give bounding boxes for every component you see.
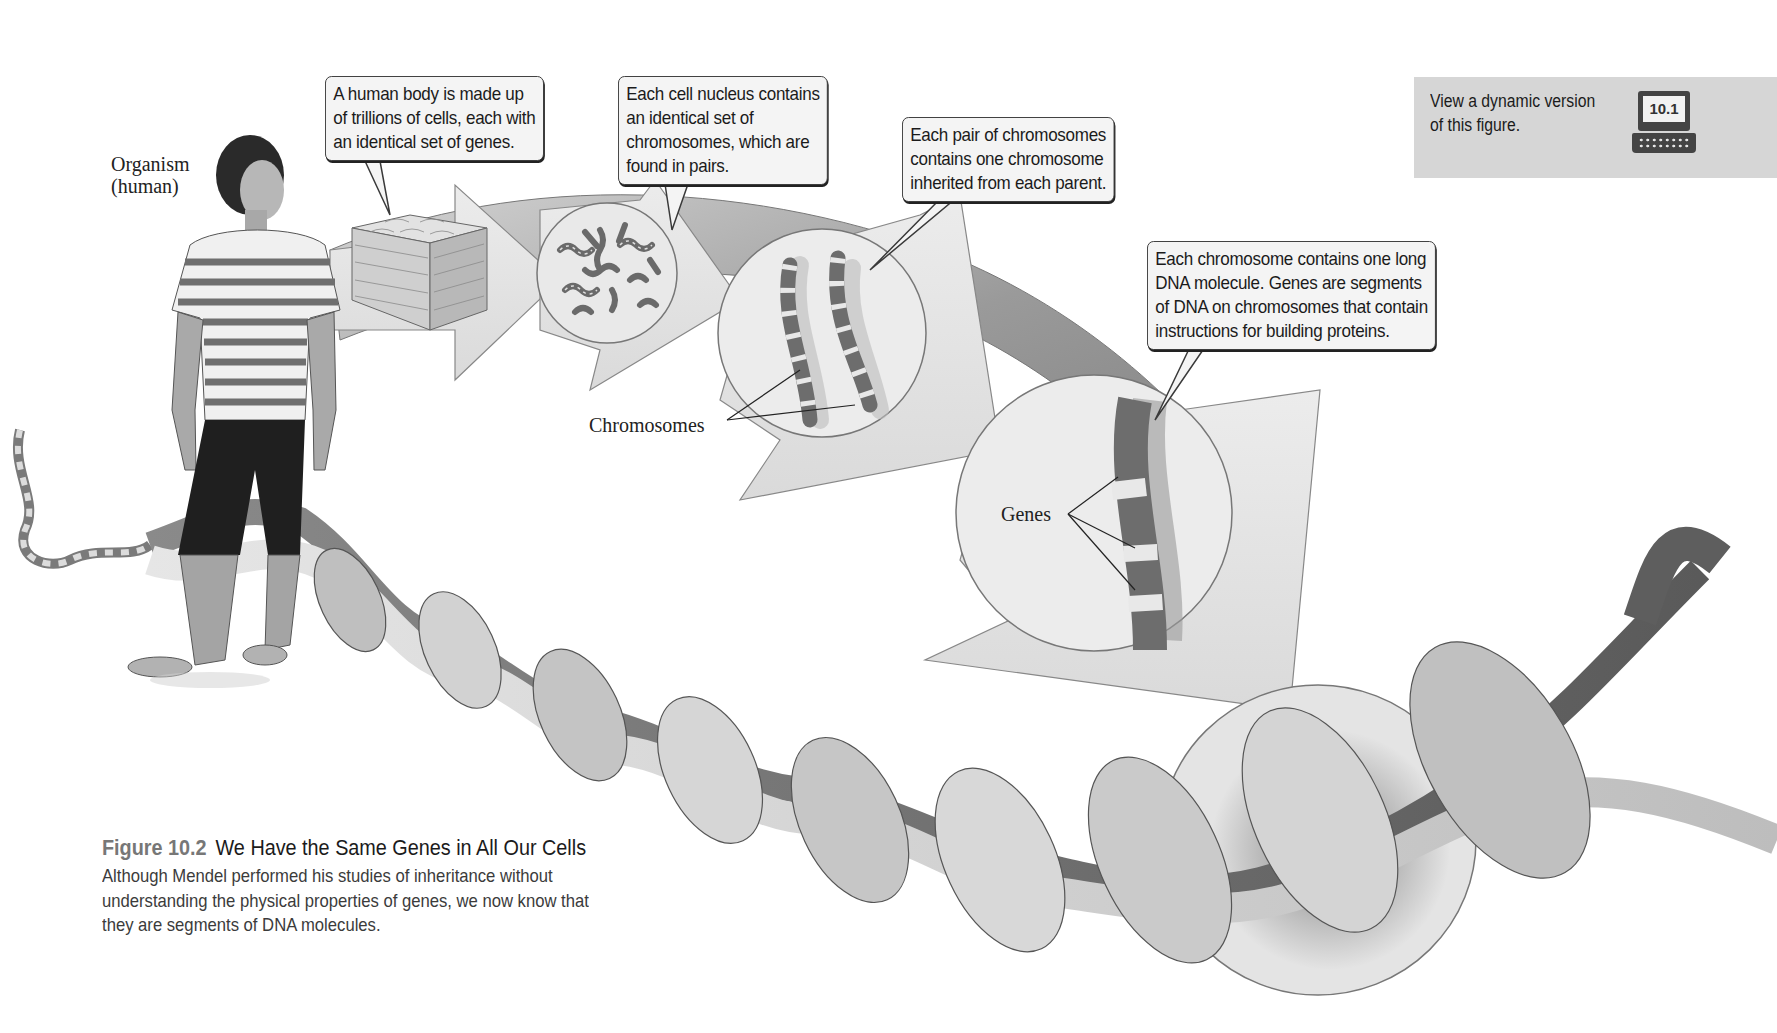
- human-figure-illustration: [128, 135, 340, 688]
- keyboard-keys: [1638, 137, 1690, 149]
- caption-line: understanding the physical properties of…: [102, 889, 678, 914]
- dynamic-version-link[interactable]: View a dynamic version of this figure. 1…: [1414, 77, 1777, 178]
- figure-badge: 10.1: [1643, 96, 1685, 122]
- figure-caption-title: Figure 10.2We Have the Same Genes in All…: [102, 834, 678, 862]
- figure-caption-body: Although Mendel performed his studies of…: [102, 864, 678, 938]
- organism-label: Organism (human): [111, 153, 190, 197]
- callout-line: of trillions of cells, each with: [333, 106, 535, 130]
- chromosome-pair-circle: [718, 229, 926, 437]
- genes-circle: [956, 375, 1232, 651]
- nucleus-circle: [537, 203, 677, 343]
- figure-number: Figure 10.2: [102, 835, 207, 860]
- callout-line: found in pairs.: [626, 154, 819, 178]
- laptop-icon: 10.1: [1632, 91, 1710, 159]
- dynamic-version-line: View a dynamic version: [1430, 89, 1595, 113]
- dynamic-version-text: View a dynamic version of this figure.: [1430, 89, 1595, 137]
- figure-title: We Have the Same Genes in All Our Cells: [216, 835, 587, 860]
- callout-line: instructions for building proteins.: [1155, 319, 1428, 343]
- callout-cell-nucleus: Each cell nucleus contains an identical …: [618, 76, 828, 185]
- callout-line: Each pair of chromosomes: [910, 123, 1106, 147]
- callout-body-cells: A human body is made up of trillions of …: [325, 76, 544, 161]
- organism-label-line-2: (human): [111, 175, 190, 197]
- chromosomes-label: Chromosomes: [589, 414, 705, 436]
- figure-caption: Figure 10.2We Have the Same Genes in All…: [102, 834, 742, 938]
- laptop-keyboard: [1632, 133, 1696, 153]
- callout-line: Each cell nucleus contains: [626, 82, 819, 106]
- callout-line: chromosomes, which are: [626, 130, 819, 154]
- callout-line: an identical set of genes.: [333, 130, 535, 154]
- callout-line: A human body is made up: [333, 82, 535, 106]
- callout-line: DNA molecule. Genes are segments: [1155, 271, 1428, 295]
- callout-chromosome-pair: Each pair of chromosomes contains one ch…: [902, 117, 1115, 202]
- callout-line: an identical set of: [626, 106, 819, 130]
- callout-line: contains one chromosome: [910, 147, 1106, 171]
- dynamic-version-line: of this figure.: [1430, 113, 1595, 137]
- callout-dna-genes: Each chromosome contains one long DNA mo…: [1147, 241, 1436, 350]
- organism-label-line-1: Organism: [111, 153, 190, 175]
- genes-label: Genes: [1001, 503, 1051, 525]
- laptop-screen: 10.1: [1638, 91, 1690, 131]
- caption-line: Although Mendel performed his studies of…: [102, 864, 678, 889]
- callout-line: inherited from each parent.: [910, 171, 1106, 195]
- callout-line: Each chromosome contains one long: [1155, 247, 1428, 271]
- caption-line: they are segments of DNA molecules.: [102, 913, 678, 938]
- callout-line: of DNA on chromosomes that contain: [1155, 295, 1428, 319]
